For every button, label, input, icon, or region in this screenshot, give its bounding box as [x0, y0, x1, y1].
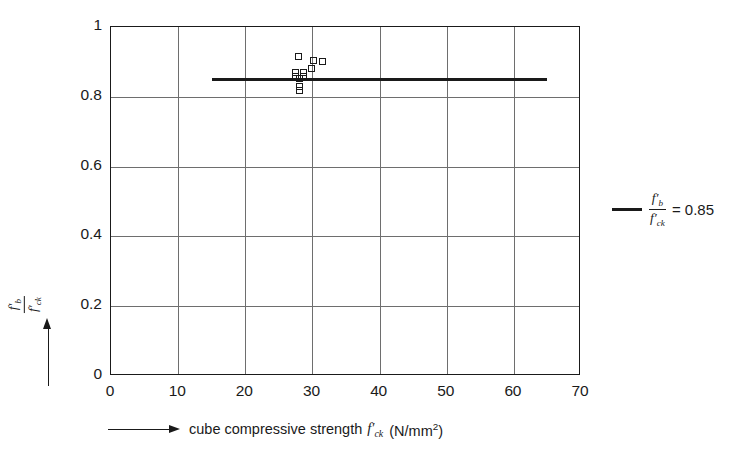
gridline-horizontal — [111, 236, 579, 237]
data-point-marker — [310, 57, 317, 64]
x-tick-label: 60 — [493, 382, 533, 400]
data-point-marker — [295, 53, 302, 60]
x-axis-units: (N/mm2) — [389, 421, 443, 439]
y-tick-label: 1 — [40, 16, 102, 34]
legend: f′b f′ck = 0.85 — [612, 191, 714, 228]
plot-area — [110, 26, 580, 375]
x-tick-label: 40 — [359, 382, 399, 400]
y-tick-label: 0.6 — [40, 156, 102, 174]
legend-fraction: f′b f′ck — [647, 191, 668, 228]
arrow-up-icon — [43, 318, 53, 386]
x-tick-label: 70 — [560, 382, 600, 400]
legend-line-swatch — [612, 208, 642, 211]
y-tick-label: 0.4 — [40, 225, 102, 243]
arrow-right-icon — [108, 424, 180, 434]
y-axis-label: f′b f′ck — [18, 280, 64, 390]
y-tick-label: 0.8 — [40, 86, 102, 104]
x-tick-label: 20 — [224, 382, 264, 400]
gridline-horizontal — [111, 167, 579, 168]
x-axis-label: cube compressive strength f′ck (N/mm2) — [108, 420, 443, 439]
data-point-marker — [308, 65, 315, 72]
reference-line — [212, 78, 548, 81]
x-tick-label: 10 — [157, 382, 197, 400]
y-axis-fraction: f′b f′ck — [6, 294, 43, 315]
x-axis-label-text: cube compressive strength — [189, 421, 362, 437]
data-point-marker — [319, 58, 326, 65]
gridline-vertical — [178, 27, 179, 374]
gridline-horizontal — [111, 97, 579, 98]
data-point-marker — [296, 87, 303, 94]
x-tick-label: 30 — [291, 382, 331, 400]
x-axis-symbol: f′ck — [367, 420, 383, 439]
gridline-horizontal — [111, 306, 579, 307]
x-tick-label: 0 — [90, 382, 130, 400]
data-point-marker — [296, 75, 303, 82]
chart-figure: 010203040506070 00.20.40.60.81 cube comp… — [0, 0, 742, 459]
x-tick-label: 50 — [426, 382, 466, 400]
legend-value: = 0.85 — [672, 201, 714, 218]
